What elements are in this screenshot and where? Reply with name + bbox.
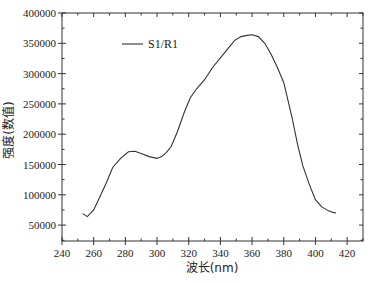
x-tick-label: 300: [149, 247, 166, 259]
x-tick-label: 380: [276, 247, 293, 259]
y-axis-label: 强度(数值): [1, 101, 16, 158]
y-axis-ticks: 5000010000015000020000025000030000035000…: [23, 7, 363, 240]
x-axis-ticks: 240260280300320340360380400420: [54, 13, 363, 259]
y-tick-label: 150000: [23, 159, 57, 171]
y-tick-label: 100000: [23, 189, 57, 201]
legend-label: S1/R1: [148, 37, 178, 51]
y-tick-label: 50000: [29, 219, 57, 231]
x-tick-label: 280: [117, 247, 134, 259]
x-axis-label: 波长(nm): [186, 261, 239, 275]
legend: S1/R1: [122, 37, 178, 51]
x-tick-label: 420: [339, 247, 356, 259]
y-tick-label: 400000: [23, 7, 57, 19]
x-tick-label: 360: [244, 247, 261, 259]
series-line-s1-r1: [83, 35, 336, 217]
y-tick-label: 350000: [23, 37, 57, 49]
x-tick-label: 260: [85, 247, 102, 259]
x-tick-label: 340: [212, 247, 229, 259]
y-tick-label: 200000: [23, 128, 57, 140]
y-tick-label: 250000: [23, 98, 57, 110]
x-tick-label: 400: [307, 247, 324, 259]
x-tick-label: 240: [54, 247, 71, 259]
x-tick-label: 320: [180, 247, 197, 259]
plot-frame: [62, 13, 363, 241]
line-chart: 5000010000015000020000025000030000035000…: [0, 0, 373, 283]
y-tick-label: 300000: [23, 68, 57, 80]
